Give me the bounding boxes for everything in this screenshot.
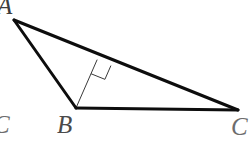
- vertex-label-a: A: [0, 0, 12, 18]
- vertex-label-c-left: C: [0, 112, 10, 137]
- triangle-side-bc: [76, 108, 238, 110]
- geometry-figure: A C B C: [0, 0, 252, 152]
- triangle-diagram-canvas: [0, 0, 252, 152]
- canvas-background: [0, 0, 252, 152]
- vertex-label-c-right: C: [231, 114, 248, 139]
- vertex-label-b: B: [57, 112, 72, 137]
